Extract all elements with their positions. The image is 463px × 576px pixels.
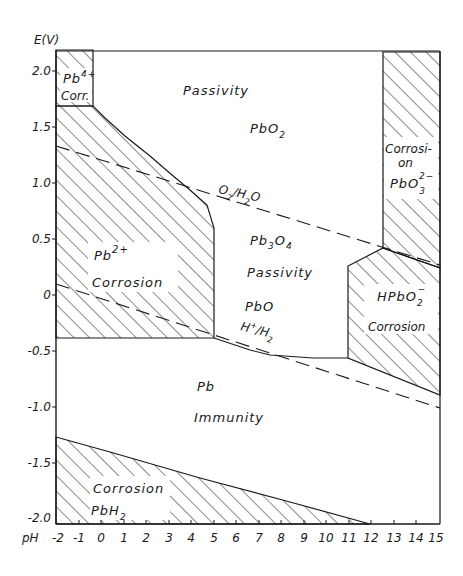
label-o2-h2o: O2/H2O (217, 182, 262, 208)
label-corrosion-pbo3: Corrosi- on PbO32− (384, 137, 438, 199)
svg-text:PbO2: PbO2 (250, 121, 286, 140)
label-pb4-corr: Pb4+ Corr. (60, 68, 96, 103)
x-axis-label: pH (21, 531, 39, 545)
svg-text:1.5: 1.5 (32, 120, 51, 134)
label-h-h2: H+/H2 (238, 318, 275, 345)
svg-text:Corrosion: Corrosion (92, 275, 163, 290)
label-hpbo2-corrosion: HPbO2− Corrosion (364, 284, 438, 334)
svg-text:-2.0: -2.0 (28, 511, 52, 525)
svg-text:-2: -2 (52, 531, 64, 545)
svg-text:-1: -1 (73, 531, 85, 545)
svg-text:on: on (398, 156, 413, 170)
svg-text:4: 4 (187, 531, 195, 545)
label-passivity-mid: Passivity (247, 265, 313, 280)
svg-text:14: 14 (408, 531, 423, 545)
label-pb3o4: Pb3O4 (250, 233, 293, 251)
region-pb2-corrosion (56, 106, 214, 338)
svg-text:15: 15 (428, 531, 443, 545)
label-immunity: Immunity (194, 410, 264, 425)
label-pbh2-corrosion: Corrosion PbH2 (90, 476, 170, 522)
svg-text:12: 12 (363, 531, 378, 545)
svg-text:0: 0 (97, 531, 105, 545)
y-axis-label: E(V) (34, 33, 59, 47)
svg-text:9: 9 (300, 531, 308, 545)
y-tick-labels: 2.0 1.5 1.0 0.5 0 -0.5 -1.0 -1.5 -2.0 (28, 64, 52, 525)
svg-text:-1.0: -1.0 (28, 400, 52, 414)
svg-text:Corrosion: Corrosion (93, 481, 164, 496)
label-pb: Pb (197, 379, 215, 394)
svg-text:2: 2 (142, 531, 150, 545)
svg-text:Passivity: Passivity (183, 83, 249, 98)
svg-text:2.0: 2.0 (32, 64, 51, 78)
label-passivity-pbo2: Passivity PbO2 (183, 83, 286, 140)
svg-text:11: 11 (341, 531, 356, 545)
svg-text:Corr.: Corr. (61, 89, 89, 103)
svg-text:Corrosi-: Corrosi- (385, 142, 432, 156)
svg-text:-1.5: -1.5 (28, 456, 51, 470)
svg-text:-0.5: -0.5 (28, 344, 51, 358)
svg-text:Pb3O4: Pb3O4 (250, 233, 293, 251)
label-pb2-corrosion: Pb2+ Corrosion (88, 242, 178, 292)
label-pbo: PbO (245, 299, 274, 314)
svg-text:13: 13 (386, 531, 401, 545)
svg-text:0: 0 (43, 288, 51, 302)
svg-text:H+/H2: H+/H2 (238, 318, 275, 345)
svg-text:1: 1 (120, 531, 128, 545)
svg-text:Corrosion: Corrosion (368, 320, 425, 334)
x-tick-labels: -2 -1 0 1 2 3 4 5 6 7 8 9 10 11 12 13 14… (52, 531, 444, 545)
svg-text:1.0: 1.0 (32, 176, 51, 190)
pourbaix-diagram: E(V) pH 2.0 1.5 1.0 0.5 0 -0.5 -1.0 -1.5… (0, 0, 463, 576)
svg-text:0.5: 0.5 (32, 232, 51, 246)
svg-text:O2/H2O: O2/H2O (217, 182, 262, 208)
pbo-lower-boundary (214, 338, 348, 358)
svg-text:7: 7 (255, 531, 263, 545)
svg-text:3: 3 (165, 531, 173, 545)
svg-text:6: 6 (232, 531, 240, 545)
svg-text:8: 8 (277, 531, 285, 545)
svg-text:5: 5 (210, 531, 218, 545)
svg-text:10: 10 (318, 531, 334, 545)
